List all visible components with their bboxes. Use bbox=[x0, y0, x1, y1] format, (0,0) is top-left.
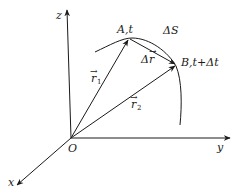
delta-r-label: Δr → bbox=[140, 46, 157, 66]
r2-label: r → 2 bbox=[130, 92, 141, 112]
z-axis bbox=[67, 10, 71, 138]
x-axis-label: x bbox=[8, 176, 15, 189]
kinematics-diagram: z y x O A,t B,t+Δt ΔS Δr → r → 1 r → 2 bbox=[0, 0, 240, 192]
point-b-label: B,t+Δt bbox=[180, 56, 219, 69]
svg-text:1: 1 bbox=[97, 78, 101, 86]
origin-label: O bbox=[68, 142, 77, 155]
point-a-label: A,t bbox=[116, 23, 133, 36]
r1-vector bbox=[71, 40, 128, 138]
r2-vector bbox=[71, 66, 175, 138]
z-axis-label: z bbox=[55, 9, 62, 22]
svg-text:→: → bbox=[130, 92, 138, 102]
x-axis bbox=[17, 138, 71, 185]
svg-text:→: → bbox=[149, 46, 157, 56]
r1-label: r → 1 bbox=[90, 66, 101, 86]
svg-text:→: → bbox=[90, 66, 98, 76]
svg-text:2: 2 bbox=[137, 104, 141, 112]
y-axis-label: y bbox=[216, 141, 224, 154]
path-length-label: ΔS bbox=[162, 24, 179, 37]
